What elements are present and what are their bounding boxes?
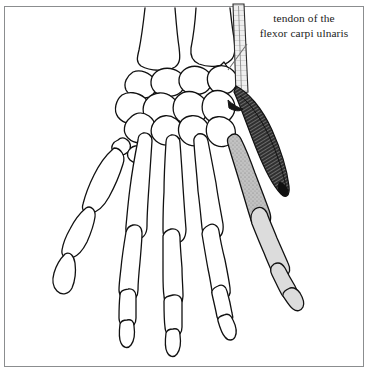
thumb-metacarpal bbox=[82, 148, 123, 213]
metacarpal-iv bbox=[194, 134, 223, 239]
hand-skeleton-illustration bbox=[0, 0, 371, 374]
distal-phalanx-iii bbox=[165, 329, 180, 357]
tendon-label: tendon of the flexor carpi ulnaris bbox=[246, 11, 362, 40]
tendon-label-line2: flexor carpi ulnaris bbox=[246, 26, 362, 41]
figure-plate: tendon of the flexor carpi ulnaris bbox=[0, 0, 371, 374]
distal-phalanx-v bbox=[283, 288, 304, 311]
tendon-label-line1: tendon of the bbox=[273, 12, 334, 24]
metacarpal-iii bbox=[163, 135, 186, 243]
radius-bone bbox=[137, 8, 179, 70]
distal-phalanx-ii bbox=[119, 320, 134, 348]
thumb-proximal-phalanx bbox=[62, 207, 95, 258]
thumb-distal-phalanx bbox=[53, 253, 75, 294]
